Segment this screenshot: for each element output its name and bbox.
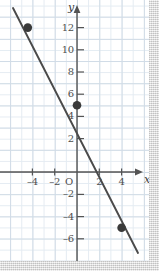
x-tick-label: 2 (96, 177, 102, 187)
graph-panel: –4 –2 2 4 O 12 10 8 6 4 2 –2 –4 –6 x y (0, 0, 149, 261)
y-axis-label: y (68, 2, 74, 13)
origin-label: O (65, 177, 73, 187)
plotted-line (13, 8, 138, 253)
y-axis-ticks (77, 28, 84, 239)
y-tick-label: –6 (63, 234, 74, 244)
data-point (73, 101, 82, 110)
y-tick-label: –2 (63, 189, 74, 199)
y-tick-label: 6 (68, 89, 74, 99)
x-tick-label: –2 (49, 177, 60, 187)
x-axis-label: x (144, 174, 149, 185)
y-tick-label: 4 (68, 111, 74, 121)
y-tick-label: –4 (63, 212, 74, 222)
x-tick-label: 4 (119, 177, 125, 187)
coordinate-plane-plot (0, 0, 149, 261)
data-point (117, 223, 126, 232)
y-tick-label: 12 (62, 23, 74, 33)
graph-figure: –4 –2 2 4 O 12 10 8 6 4 2 –2 –4 –6 x y (0, 0, 159, 271)
y-tick-label: 2 (68, 134, 74, 144)
y-tick-label: 8 (68, 67, 74, 77)
data-point (24, 23, 33, 32)
x-tick-label: –4 (27, 177, 38, 187)
y-tick-label: 10 (62, 45, 74, 55)
